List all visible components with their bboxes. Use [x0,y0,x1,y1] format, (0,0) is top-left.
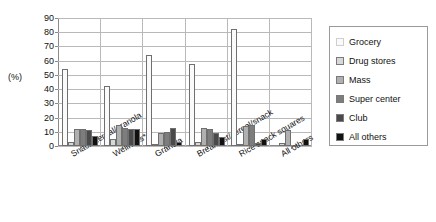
bar [231,29,237,146]
y-tick-label: 60 [44,56,54,66]
y-tick-label: 40 [44,84,54,94]
bar [92,136,98,146]
y-tick-mark [55,89,58,90]
y-tick-label: 70 [44,41,54,51]
y-tick-label: 90 [44,13,54,23]
legend-item[interactable]: Grocery [336,32,427,51]
legend-swatch-icon [336,133,344,141]
x-axis-labels: Snack/cereal/granolaWellness*GranolaBrea… [58,148,312,218]
bar [134,129,140,146]
y-tick-label: 0 [49,141,54,151]
y-tick-mark [55,132,58,133]
bar-group [59,18,101,146]
y-tick-label: 50 [44,70,54,80]
y-tick-label: 10 [44,127,54,137]
bar [104,86,110,146]
legend-item[interactable]: Mass [336,70,427,89]
gridline [58,146,312,147]
bar-group [101,18,143,146]
legend-item[interactable]: Drug stores [336,51,427,70]
bar-groups [59,18,312,146]
legend-label: Super center [349,94,401,104]
bar [62,69,68,146]
y-tick-mark [55,103,58,104]
y-tick-mark [55,75,58,76]
legend-swatch-icon [336,95,344,103]
y-tick-label: 80 [44,27,54,37]
y-tick-mark [55,18,58,19]
bar-group [186,18,228,146]
legend-item[interactable]: Club [336,108,427,127]
y-tick-mark [55,46,58,47]
legend-label: Club [349,113,368,123]
y-tick-mark [55,118,58,119]
bar [146,55,152,146]
group-separator [311,18,312,146]
legend-label: Drug stores [349,56,396,66]
chart-container: (%) 0102030405060708090 Snack/cereal/gra… [0,0,436,222]
legend-item[interactable]: Super center [336,89,427,108]
legend-label: Grocery [349,37,381,47]
y-axis-title: (%) [8,72,22,82]
y-tick-mark [55,146,58,147]
bar [176,142,182,146]
legend-label: All others [349,132,387,142]
legend-item[interactable]: All others [336,127,427,146]
legend-label: Mass [349,75,371,85]
y-tick-label: 20 [44,113,54,123]
legend-swatch-icon [336,38,344,46]
legend-swatch-icon [336,114,344,122]
bar [285,130,291,146]
y-tick-label: 30 [44,98,54,108]
bar [219,137,225,146]
plot-area: 0102030405060708090 [58,18,312,146]
bar-group [228,18,270,146]
y-tick-mark [55,32,58,33]
bar [261,139,267,146]
bar-group [143,18,185,146]
chart-legend: GroceryDrug storesMassSuper centerClubAl… [329,26,428,146]
legend-swatch-icon [336,76,344,84]
bar [189,64,195,146]
legend-swatch-icon [336,57,344,65]
y-tick-mark [55,61,58,62]
bar [303,139,309,146]
